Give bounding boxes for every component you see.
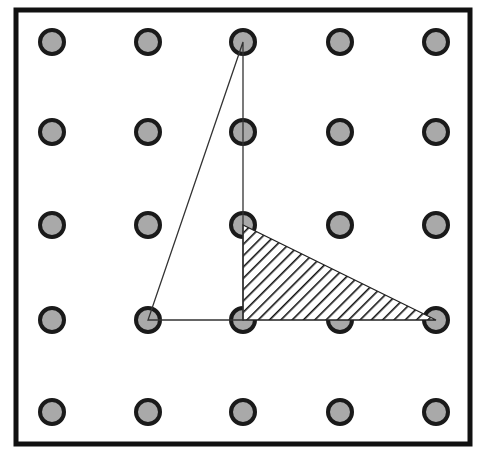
peg-r1-c4 — [424, 120, 448, 144]
hatched-triangle — [243, 225, 436, 320]
peg-r4-c4 — [424, 400, 448, 424]
peg-r2-c0 — [40, 213, 64, 237]
peg-r0-c3 — [328, 30, 352, 54]
peg-r1-c3 — [328, 120, 352, 144]
peg-r2-c3 — [328, 213, 352, 237]
peg-r2-c1 — [136, 213, 160, 237]
peg-r4-c0 — [40, 400, 64, 424]
peg-r4-c1 — [136, 400, 160, 424]
peg-r2-c4 — [424, 213, 448, 237]
geoboard-diagram — [0, 0, 481, 458]
peg-r4-c3 — [328, 400, 352, 424]
peg-r1-c0 — [40, 120, 64, 144]
peg-r3-c0 — [40, 308, 64, 332]
outline-triangle — [148, 42, 243, 320]
peg-r0-c1 — [136, 30, 160, 54]
peg-r4-c2 — [231, 400, 255, 424]
peg-r0-c0 — [40, 30, 64, 54]
peg-r1-c1 — [136, 120, 160, 144]
peg-r0-c4 — [424, 30, 448, 54]
